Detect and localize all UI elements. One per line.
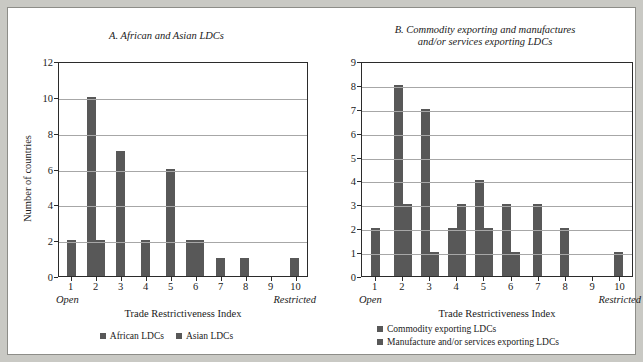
x-axis-tick-label: 4 [454,281,459,292]
y-axis-tick-mark [357,181,361,182]
y-axis-tick-label: 0 [351,272,356,283]
bar-slot [497,63,524,276]
panel-a-x-axis-title: Trade Restrictiveness Index [58,308,308,319]
x-axis-tick-label: 3 [118,281,123,292]
bar-slot [551,63,578,276]
figure-frame: A. African and Asian LDCs 024681012 1234… [0,0,643,362]
x-axis-tick-mark [221,277,222,281]
x-axis-tick-label: 2 [93,281,98,292]
x-axis-tick: 7 [208,277,233,311]
gridline [362,111,632,112]
gridline [59,242,307,243]
x-axis-tick-mark [196,277,197,281]
bar-slot [282,63,307,276]
bar-slot [84,63,109,276]
y-axis-tick-label: 1 [351,248,356,259]
bar [116,151,125,276]
chart-panel-b: B. Commodity exporting and manufactures … [325,8,643,356]
legend-item[interactable]: Commodity exporting LDCs [377,323,559,335]
x-axis-tick-mark [146,277,147,281]
bar [560,228,569,276]
bar-slot [208,63,233,276]
x-axis-tick-mark [619,277,620,281]
bar [216,258,225,276]
bar [87,97,96,276]
bar-slot [362,63,389,276]
x-axis-tick-label: 1 [68,281,73,292]
gridline [362,230,632,231]
y-axis-tick-label: 4 [48,200,53,211]
bar [394,85,403,276]
x-axis-tick-mark [171,277,172,281]
panel-a-legend: African LDCsAsian LDCs [14,330,319,342]
panel-b-x-axis-title: Trade Restrictiveness Index [361,308,633,319]
bar [448,228,457,276]
bar [475,180,484,276]
y-axis-tick-mark [357,110,361,111]
y-axis-tick-label: 2 [351,224,356,235]
y-axis-tick-label: 10 [43,92,54,103]
y-axis-tick-mark [54,241,58,242]
gridline [362,254,632,255]
x-axis-tick: 2 [83,277,108,311]
legend-item[interactable]: Asian LDCs [176,330,233,342]
y-axis-tick-label: 12 [43,57,54,68]
gridline [59,171,307,172]
x-axis-tick-mark [429,277,430,281]
y-axis-tick-mark [357,229,361,230]
legend-swatch-icon [377,339,383,345]
bar-slot [133,63,158,276]
legend-label: Commodity exporting LDCs [387,323,496,335]
chart-panel-a: A. African and Asian LDCs 024681012 1234… [14,8,319,356]
x-axis-tick-mark [121,277,122,281]
panel-a-restricted-label: Restricted [273,294,316,305]
x-axis-tick: 3 [415,277,442,311]
x-axis-tick-mark [71,277,72,281]
panel-b-title: B. Commodity exporting and manufactures … [325,24,643,48]
bar [457,204,466,276]
panel-a-plot-area: 024681012 12345678910 Open Restricted Tr… [58,62,308,277]
x-axis-tick-label: 6 [508,281,513,292]
x-axis-tick-mark [456,277,457,281]
x-axis-tick: 8 [233,277,258,311]
bar-slot [233,63,258,276]
bar [141,240,150,276]
y-axis-tick-label: 2 [48,236,53,247]
y-axis-tick-label: 0 [48,272,53,283]
panel-a-bar-group [59,63,307,276]
y-axis-tick-label: 6 [48,164,53,175]
legend-swatch-icon [100,333,106,339]
y-axis-tick-mark [54,205,58,206]
legend-label: African LDCs [110,330,164,342]
y-axis-tick-mark [54,62,58,63]
y-axis-tick-mark [357,62,361,63]
legend-item[interactable]: Manufacture and/or services exporting LD… [377,336,559,348]
x-axis-tick: 5 [470,277,497,311]
bar-slot [183,63,208,276]
x-axis-tick-mark [96,277,97,281]
x-axis-tick: 6 [183,277,208,311]
panel-b-open-label: Open [359,294,382,305]
bar [96,240,105,276]
panel-b-plot-area: 0123456789 12345678910 Open Restricted T… [361,62,633,277]
bar [614,252,623,276]
gridline [362,87,632,88]
bar [502,204,511,276]
figure-inner-panel: A. African and Asian LDCs 024681012 1234… [7,7,636,355]
y-axis-tick-label: 4 [351,176,356,187]
y-axis-tick-mark [357,253,361,254]
bar [240,258,249,276]
y-axis-tick-mark [357,86,361,87]
legend-item[interactable]: African LDCs [100,330,164,342]
x-axis-tick-mark [296,277,297,281]
legend-swatch-icon [377,326,383,332]
y-axis-tick-mark [357,158,361,159]
bar [430,252,439,276]
x-axis-tick: 3 [108,277,133,311]
x-axis-tick-label: 8 [562,281,567,292]
panel-a-title: A. African and Asian LDCs [14,30,319,42]
x-axis-tick-mark [538,277,539,281]
bar [290,258,299,276]
bar-slot [578,63,605,276]
gridline [362,182,632,183]
